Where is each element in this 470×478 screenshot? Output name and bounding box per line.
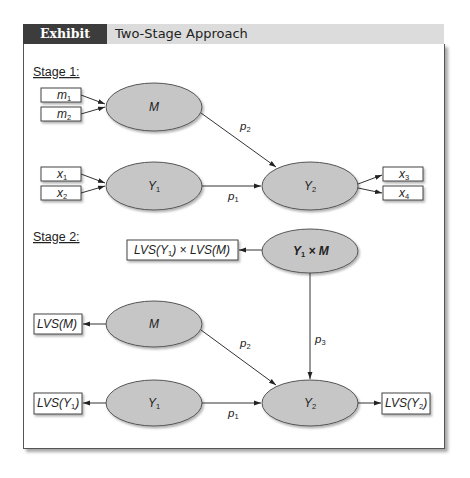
path-label-p2-stage2: p2 [239,337,251,351]
construct-y1-stage2: Y1 [106,380,202,426]
construct-y2-stage1: Y2 [262,162,358,210]
indicator-m1: m1 [41,88,81,103]
indicator-x4: x4 [383,186,423,201]
indicator-lvs-m: LVS(M) [34,314,82,334]
path-label-p2-stage1: p2 [239,120,251,134]
arrow-x1-to-y1 [81,174,105,183]
indicator-lvs-y1: LVS(Y1) [34,393,82,414]
arrow-y2-to-x4 [358,188,382,193]
svg-text:M: M [149,317,159,331]
arrow-x2-to-y1 [81,186,105,193]
indicator-x3: x3 [383,167,423,182]
indicator-x2: x2 [41,186,81,201]
path-label-p1-stage1: p1 [227,190,239,204]
stage-2-title: Stage 2: [33,230,80,244]
arrow-m2-to-m [81,107,105,114]
stage-1-title: Stage 1: [33,65,80,79]
arrow-y2-to-x3 [358,175,382,184]
indicator-lvs-y2: LVS(Y2) [382,393,430,414]
path-m-to-y2-stage1 [201,113,276,167]
construct-y1-stage1: Y1 [106,162,202,210]
construct-y2-stage2: Y2 [262,380,358,426]
svg-text:M: M [149,100,159,114]
arrow-m1-to-m [81,95,105,104]
construct-m-stage1: M [106,83,202,131]
indicator-lvs-interaction: LVS(Y1) × LVS(M) [127,240,238,260]
path-diagram: Stage 1: m1 m2 x1 x2 M Y1 Y2 p2 p1 [0,0,470,478]
construct-m-stage2: M [106,301,202,347]
svg-text:Y1 × M: Y1 × M [293,244,330,259]
construct-interaction: Y1 × M [262,229,358,273]
path-label-p1-stage2: p1 [227,407,239,421]
path-label-p3: p3 [314,333,326,347]
indicator-x1: x1 [41,167,81,182]
svg-text:LVS(Y1) × LVS(M): LVS(Y1) × LVS(M) [134,243,230,258]
svg-text:LVS(M): LVS(M) [37,317,77,331]
indicator-m2: m2 [41,107,81,122]
path-m-to-y2-stage2 [201,330,276,385]
